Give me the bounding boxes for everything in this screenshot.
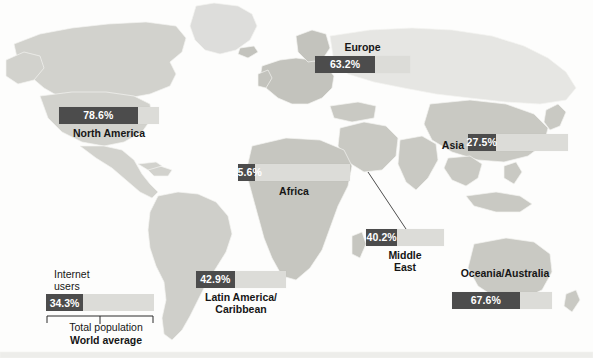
legend-bar: 34.3% bbox=[46, 294, 154, 311]
region-bar-asia[interactable]: 27.5% bbox=[468, 134, 568, 151]
region-value-north-america: 78.6% bbox=[79, 110, 117, 121]
legend-world-average-label: World average bbox=[46, 334, 166, 346]
bar-fill-internet-users: 42.9% bbox=[196, 271, 235, 288]
region-label-latin-america-line1: Latin America/ bbox=[186, 292, 296, 304]
region-bar-middle-east[interactable]: 40.2% bbox=[366, 229, 444, 246]
bar-fill-internet-users: 40.2% bbox=[366, 229, 397, 246]
region-value-oceania: 67.6% bbox=[467, 295, 505, 306]
region-bar-europe[interactable]: 63.2% bbox=[315, 56, 410, 73]
region-label-europe: Europe bbox=[315, 42, 410, 54]
legend-bracket bbox=[46, 311, 154, 321]
region-bar-africa[interactable]: 15.6% bbox=[238, 164, 350, 181]
legend-value: 34.3% bbox=[50, 297, 80, 309]
region-label-middle-east: Middle East bbox=[366, 250, 444, 273]
region-label-north-america: North America bbox=[59, 128, 159, 140]
bar-fill-internet-users: 67.6% bbox=[452, 292, 520, 309]
region-bar-north-america[interactable]: 78.6% bbox=[59, 107, 159, 124]
region-label-middle-east-line1: Middle bbox=[366, 250, 444, 262]
region-value-africa: 15.6% bbox=[230, 167, 264, 178]
bar-fill-internet-users: 27.5% bbox=[468, 134, 496, 151]
region-value-asia: 27.5% bbox=[463, 137, 501, 148]
region-value-europe: 63.2% bbox=[326, 59, 364, 70]
region-label-latin-america: Latin America/ Caribbean bbox=[186, 292, 296, 315]
region-label-africa: Africa bbox=[238, 186, 350, 198]
region-label-middle-east-line2: East bbox=[366, 262, 444, 274]
turkey bbox=[330, 102, 376, 122]
bar-fill-internet-users: 63.2% bbox=[315, 56, 375, 73]
legend-title-line2: users bbox=[54, 280, 196, 292]
region-value-latin-america: 42.9% bbox=[196, 274, 234, 285]
legend-bar-fill-internet-users: 34.3% bbox=[46, 294, 83, 311]
antarctica bbox=[0, 352, 593, 358]
bracket-path bbox=[47, 316, 153, 324]
region-label-oceania: Oceania/Australia bbox=[450, 268, 560, 280]
region-bar-oceania[interactable]: 67.6% bbox=[452, 292, 552, 309]
bar-fill-internet-users: 15.6% bbox=[238, 164, 255, 181]
infographic-root: 78.6% North America Europe 63.2% Asia 27… bbox=[0, 0, 593, 358]
bar-fill-internet-users: 78.6% bbox=[59, 107, 138, 124]
legend-bracket-svg bbox=[46, 315, 154, 325]
region-bar-latin-america[interactable]: 42.9% bbox=[196, 271, 286, 288]
region-label-latin-america-line2: Caribbean bbox=[186, 304, 296, 316]
region-label-asia: Asia bbox=[432, 140, 464, 152]
region-value-middle-east: 40.2% bbox=[363, 232, 401, 243]
legend-world-average: Internet users 34.3% Total population Wo… bbox=[46, 268, 196, 346]
legend-title-line1: Internet bbox=[54, 268, 196, 280]
